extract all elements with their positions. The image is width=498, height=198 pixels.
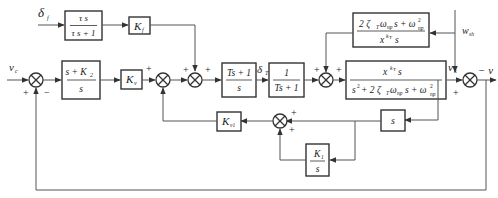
svg-text:Ts + 1: Ts + 1 (274, 83, 298, 93)
svg-text:+: + (314, 64, 320, 75)
svg-text:np: np (430, 91, 436, 97)
svg-text:c: c (15, 68, 18, 74)
kf-gain-block: K f (129, 17, 150, 34)
svg-text:+: + (453, 87, 459, 98)
svg-text:v: v (9, 61, 14, 73)
plant-block: x kT s s 2 + 2 ζ T ω np s + ω 2 np (346, 61, 446, 99)
svg-text:s: s (395, 35, 399, 45)
svg-text:v: v (448, 61, 453, 73)
svg-text:K: K (125, 73, 134, 85)
svg-text:1: 1 (321, 154, 324, 160)
svg-text:2: 2 (90, 72, 93, 78)
summing-junction-4: + + (314, 64, 342, 87)
svg-text:K: K (221, 115, 230, 127)
svg-text:sh: sh (469, 31, 474, 37)
svg-text:v: v (134, 80, 137, 86)
svg-text:+ 2 ζ: + 2 ζ (361, 85, 382, 96)
lag-block: 1 Ts + 1 (269, 63, 304, 97)
disturbance-block: 2 ζ T ω np s + ω 2 np x kT s (353, 13, 429, 47)
summing-junction-2: + (146, 63, 170, 87)
svg-text:v1: v1 (230, 122, 235, 128)
svg-text:2 ζ: 2 ζ (359, 19, 371, 30)
derivative-block: s (381, 110, 405, 131)
svg-text:w: w (462, 25, 469, 36)
svg-text:s: s (237, 83, 241, 93)
svg-text:s: s (79, 84, 83, 94)
svg-text:ω: ω (380, 19, 387, 29)
svg-text:s + ω: s + ω (394, 19, 416, 29)
svg-text:s: s (391, 115, 395, 126)
svg-text:K: K (313, 149, 321, 159)
svg-text:s: s (398, 67, 402, 77)
kv1-gain-block: K v1 (217, 112, 241, 131)
vc-input: v c (7, 61, 28, 80)
svg-text:+: + (23, 87, 29, 98)
svg-text:Ts + 1: Ts + 1 (227, 68, 251, 78)
svg-text:s: s (316, 164, 320, 174)
svg-text:+: + (289, 124, 295, 135)
output-signal: − v (477, 64, 496, 80)
svg-text:np: np (397, 90, 403, 96)
integrator-k1-block: K 1 s (306, 144, 329, 176)
svg-text:− v: − v (478, 64, 493, 76)
svg-text:2: 2 (418, 17, 421, 23)
control-block-diagram: δ f τ s τ s + 1 K f v c + − s + K 2 s K (0, 0, 498, 198)
svg-text:+: + (205, 64, 211, 75)
svg-text:ω: ω (390, 85, 397, 95)
svg-text:x: x (382, 67, 388, 77)
svg-text:s: s (352, 85, 356, 95)
svg-text:+: + (183, 64, 189, 75)
svg-text:T: T (393, 67, 396, 72)
svg-text:2: 2 (430, 83, 433, 89)
washout-block: τ s τ s + 1 (65, 11, 102, 40)
svg-text:+: + (291, 107, 297, 118)
kv-gain-block: K v (121, 70, 142, 89)
svg-text:δ: δ (257, 63, 263, 75)
svg-text:K: K (133, 20, 142, 32)
svg-text:x: x (379, 35, 385, 45)
summing-junction-3: + + (183, 64, 211, 87)
svg-text:τ s: τ s (79, 13, 88, 23)
svg-text:s + K: s + K (65, 67, 87, 77)
svg-text:+: + (146, 63, 152, 74)
summing-junction-5: + (453, 73, 477, 98)
delta-f-input: δ f (38, 5, 64, 25)
svg-text:2: 2 (357, 83, 360, 89)
vk-signal: v k (448, 61, 457, 74)
svg-text:s + ω: s + ω (405, 85, 427, 95)
svg-text:−: − (44, 87, 50, 98)
svg-text:T: T (389, 35, 392, 40)
wsh-input: w sh (462, 25, 474, 37)
svg-text:τ s + 1: τ s + 1 (71, 28, 95, 38)
svg-text:δ: δ (38, 5, 45, 20)
svg-text:f: f (47, 15, 50, 21)
lead-block: Ts + 1 s (222, 63, 256, 97)
svg-text:np: np (387, 24, 393, 30)
svg-text:+: + (336, 64, 342, 75)
svg-text:1: 1 (284, 68, 289, 78)
pi-k2-block: s + K 2 s (62, 61, 100, 99)
svg-text:np: np (418, 25, 424, 31)
delta-t-signal: δ T (257, 63, 269, 76)
